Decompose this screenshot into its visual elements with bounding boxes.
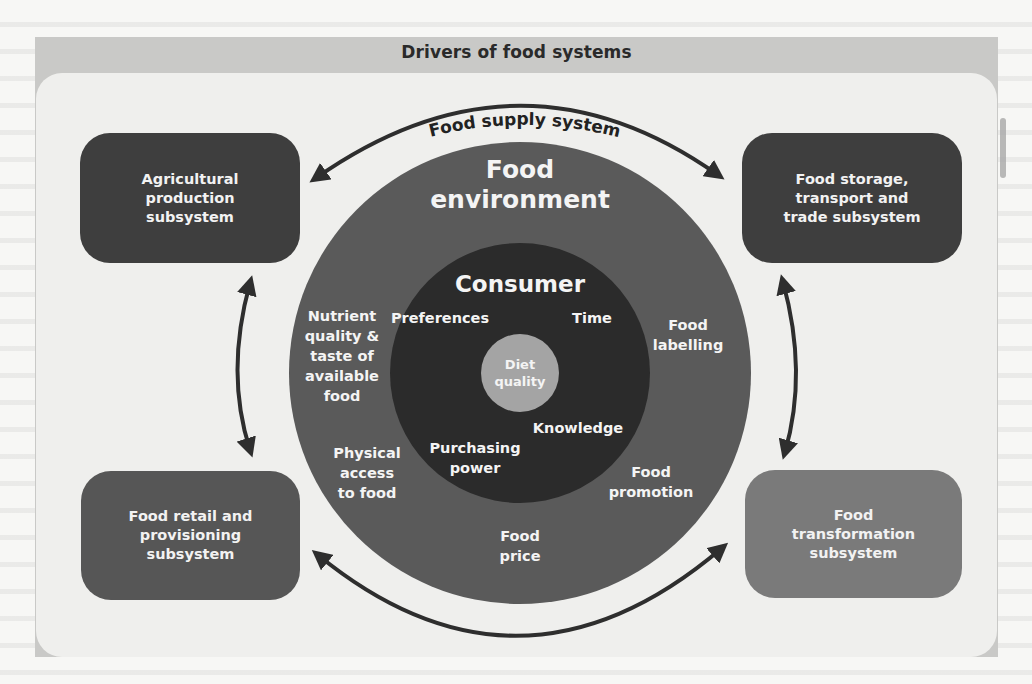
- factor-knowledge: Knowledge: [533, 418, 623, 438]
- left-arrow: [238, 283, 251, 450]
- right-arrow: [783, 282, 796, 452]
- food-retail-provisioning-subsystem: Food retail and provisioning subsystem: [81, 471, 300, 600]
- diet-quality-label: Diet quality: [495, 356, 546, 390]
- factor-food-promotion: Food promotion: [609, 462, 694, 502]
- food-transformation-subsystem: Food transformation subsystem: [745, 470, 962, 598]
- factor-purchasing-power: Purchasing power: [429, 438, 520, 478]
- factor-nutrient-quality: Nutrient quality & taste of available fo…: [305, 306, 380, 406]
- factor-physical-access: Physical access to food: [333, 443, 400, 503]
- factor-food-labelling: Food labelling: [653, 315, 724, 355]
- food-storage-transport-trade-subsystem: Food storage, transport and trade subsys…: [742, 133, 962, 263]
- factor-preferences: Preferences: [391, 308, 489, 328]
- factor-food-price: Food price: [500, 526, 541, 566]
- consumer-title: Consumer: [455, 270, 585, 298]
- food-environment-title: Food environment: [430, 155, 610, 215]
- factor-time: Time: [572, 308, 612, 328]
- agricultural-production-subsystem: Agricultural production subsystem: [80, 133, 300, 263]
